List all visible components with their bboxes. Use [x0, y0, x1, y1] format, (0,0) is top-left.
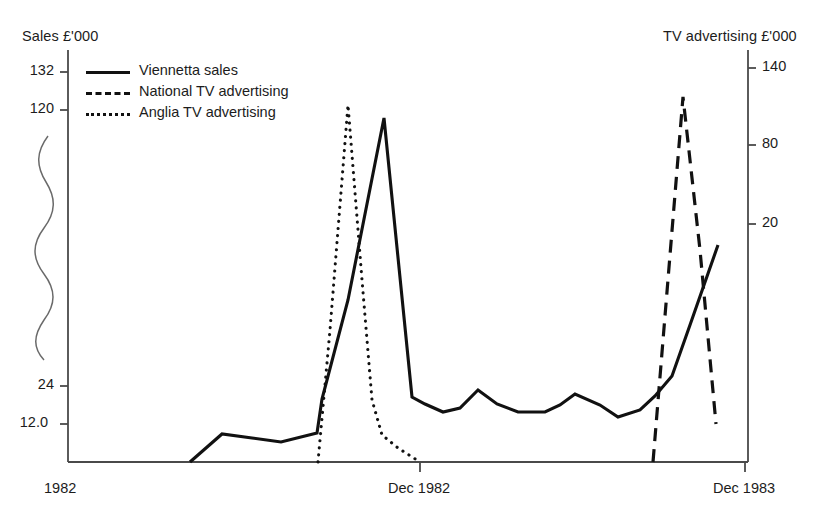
legend-item-national-tv-advertising: National TV advertising	[86, 81, 356, 102]
legend-label-anglia-tv-advertising: Anglia TV advertising	[139, 105, 276, 120]
right-tick-label-80: 80	[762, 135, 822, 151]
x-tick-label-dec-1982: Dec 1982	[388, 480, 498, 496]
left-axis-title: Sales £'000	[22, 28, 98, 44]
left-tick-label-120: 120	[8, 100, 54, 116]
x-tick-label-dec-1983: Dec 1983	[713, 480, 823, 496]
series-anglia-tv-advertising	[318, 105, 420, 462]
left-tick-label-12: 12.0	[2, 414, 48, 430]
chart-figure: Sales £'000 TV advertising £'000 132 120…	[0, 0, 839, 515]
x-axis-ticks	[420, 462, 745, 472]
dotted-line-key-icon	[86, 107, 130, 119]
legend-item-anglia-tv-advertising: Anglia TV advertising	[86, 102, 356, 123]
legend-label-national-tv-advertising: National TV advertising	[139, 84, 289, 99]
axis-break-squiggle	[35, 136, 53, 360]
right-tick-label-20: 20	[762, 214, 822, 230]
solid-line-key-icon	[86, 65, 130, 77]
x-tick-label-1982: 1982	[44, 480, 154, 496]
right-axis-ticks	[748, 68, 756, 224]
left-tick-label-24: 24	[8, 376, 54, 392]
right-axis-title: TV advertising £'000	[663, 28, 797, 44]
legend-label-viennetta-sales: Viennetta sales	[139, 63, 238, 78]
right-tick-label-140: 140	[762, 58, 822, 74]
legend-item-viennetta-sales: Viennetta sales	[86, 60, 356, 81]
left-axis-ticks	[60, 72, 68, 424]
series-viennetta-sales	[190, 118, 718, 462]
left-tick-label-132: 132	[8, 62, 54, 78]
chart-legend: Viennetta sales National TV advertising …	[86, 60, 356, 123]
dashed-line-key-icon	[86, 86, 130, 98]
